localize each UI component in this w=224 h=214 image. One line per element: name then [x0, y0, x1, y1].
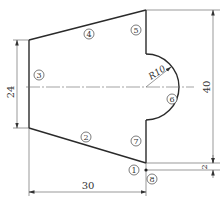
dimension-24: 24	[5, 40, 17, 128]
technical-drawing: 24 40 2 30 R10 1 2 3 4 5	[0, 0, 224, 214]
extension-lines	[13, 10, 220, 196]
radius-dimension: R10	[146, 63, 171, 87]
dim-40-text: 40	[201, 81, 212, 94]
dimension-2: 2	[200, 155, 213, 178]
point-1-dot	[144, 168, 147, 171]
svg-text:7: 7	[133, 137, 138, 146]
label-7: 7	[131, 136, 141, 146]
svg-text:8: 8	[149, 175, 154, 184]
svg-text:1: 1	[131, 166, 136, 175]
dimension-40: 40	[201, 10, 213, 163]
figure-caption	[60, 205, 170, 211]
svg-text:6: 6	[169, 95, 174, 104]
radius-text: R10	[146, 63, 168, 82]
label-2: 2	[81, 132, 91, 142]
svg-text:5: 5	[133, 26, 138, 35]
label-3: 3	[34, 70, 44, 80]
label-5: 5	[131, 25, 141, 35]
svg-text:2: 2	[83, 133, 88, 142]
dimension-30: 30	[29, 180, 146, 192]
dim-30-text: 30	[82, 180, 95, 191]
label-8: 8	[147, 174, 157, 184]
label-6: 6	[167, 94, 177, 104]
label-1: 1	[129, 165, 139, 175]
label-4: 4	[84, 29, 94, 39]
svg-text:4: 4	[86, 30, 91, 39]
dim-24-text: 24	[5, 86, 16, 99]
dim-2-text: 2	[200, 164, 209, 169]
part-outline	[29, 10, 179, 163]
svg-text:3: 3	[36, 71, 41, 80]
